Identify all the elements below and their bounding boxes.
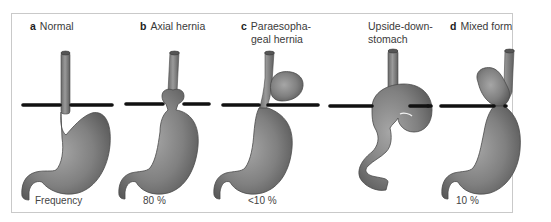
stomach-axial-hernia-illustration: [119, 51, 198, 199]
frequency-mixed: 10 %: [456, 195, 479, 206]
hernia-illustrations: [0, 0, 551, 222]
stomach-upside-down-illustration: [359, 49, 432, 190]
stomach-normal-illustration: [22, 51, 110, 200]
frequency-axial: 80 %: [143, 195, 166, 206]
stomach-mixed-form-illustration: [442, 49, 521, 199]
frequency-label: Frequency: [35, 195, 82, 206]
stomach-paraesophageal-hernia-illustration: [214, 51, 303, 199]
frequency-paraesophageal: <10 %: [248, 195, 277, 206]
